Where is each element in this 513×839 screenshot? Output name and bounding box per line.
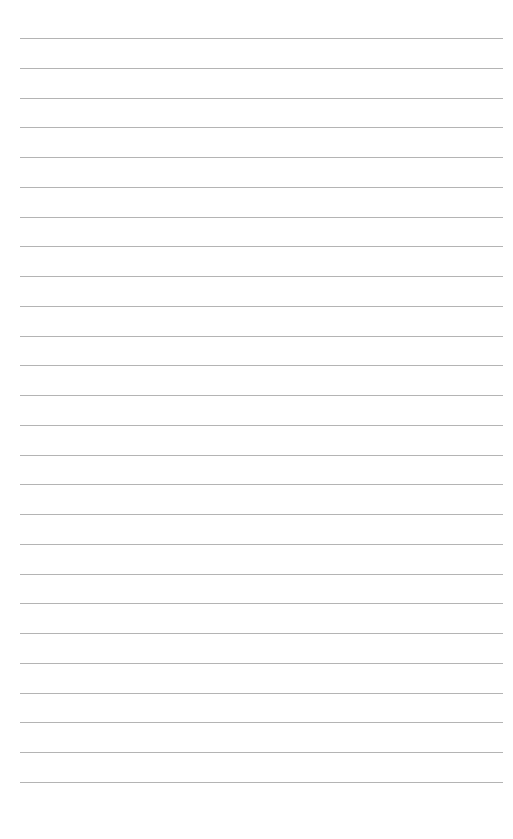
ruled-line (20, 38, 503, 39)
ruled-line (20, 306, 503, 307)
ruled-line (20, 425, 503, 426)
ruled-line (20, 544, 503, 545)
ruled-line (20, 722, 503, 723)
ruled-line (20, 246, 503, 247)
ruled-line (20, 187, 503, 188)
ruled-line (20, 127, 503, 128)
ruled-line (20, 633, 503, 634)
ruled-line (20, 782, 503, 783)
ruled-line (20, 157, 503, 158)
ruled-line (20, 484, 503, 485)
ruled-line (20, 693, 503, 694)
ruled-line (20, 752, 503, 753)
ruled-line (20, 365, 503, 366)
ruled-line (20, 217, 503, 218)
ruled-line (20, 68, 503, 69)
ruled-line (20, 603, 503, 604)
ruled-line (20, 336, 503, 337)
ruled-line (20, 395, 503, 396)
ruled-line (20, 514, 503, 515)
ruled-line (20, 455, 503, 456)
ruled-line (20, 276, 503, 277)
ruled-line (20, 574, 503, 575)
ruled-line (20, 98, 503, 99)
ruled-line (20, 663, 503, 664)
